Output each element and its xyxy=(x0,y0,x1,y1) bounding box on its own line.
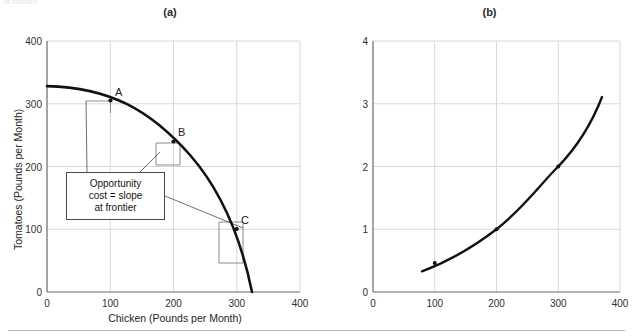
panel-b-xtick-100: 100 xyxy=(426,298,443,309)
panel-a-callout: Opportunity cost = slope at frontier xyxy=(66,172,165,220)
panel-b-xtick-300: 300 xyxy=(550,298,567,309)
panel-b-xtick-200: 200 xyxy=(488,298,505,309)
data-point-c xyxy=(556,165,560,169)
data-point-B xyxy=(171,139,175,143)
bottom-rule xyxy=(8,330,625,331)
data-point-C xyxy=(235,227,239,231)
panel-b-ytick-4: 4 xyxy=(354,36,368,47)
panel-a-plot xyxy=(0,0,320,330)
point-label-A: A xyxy=(115,86,122,98)
panel-a-xtick-0: 0 xyxy=(44,298,50,309)
figure-root: of chicken (a) xyxy=(0,0,633,336)
panel-a-ytick-300: 300 xyxy=(16,98,42,109)
panel-b-xtick-0: 0 xyxy=(370,298,376,309)
panel-b: (b) 4 3 2 xyxy=(320,0,633,330)
point-label-B: B xyxy=(178,126,185,138)
panel-b-ytick-2: 2 xyxy=(354,161,368,172)
panel-b-ytick-3: 3 xyxy=(354,98,368,109)
panel-a-callout-line2: cost = slope xyxy=(67,190,164,202)
panel-a: (a) xyxy=(0,0,320,330)
panel-a-ytick-0: 0 xyxy=(16,287,42,298)
panel-a-callout-line3: at frontier xyxy=(67,202,164,214)
panel-a-ytick-400: 400 xyxy=(16,36,42,47)
panel-b-ytick-0: 0 xyxy=(354,287,368,298)
data-point-b xyxy=(495,227,499,231)
panel-b-xtick-400: 400 xyxy=(612,298,629,309)
panel-a-xtick-400: 400 xyxy=(292,298,309,309)
panel-a-xtick-200: 200 xyxy=(165,298,182,309)
data-point-A xyxy=(108,98,112,102)
panel-a-xtick-100: 100 xyxy=(102,298,119,309)
point-label-C: C xyxy=(241,214,249,226)
panel-a-ylabel: Tomatoes (Pounds per Month) xyxy=(12,109,24,250)
panel-a-xtick-300: 300 xyxy=(228,298,245,309)
panel-b-ytick-1: 1 xyxy=(354,224,368,235)
data-point-a xyxy=(433,261,437,265)
panel-a-xlabel: Chicken (Pounds per Month) xyxy=(48,312,302,324)
panel-a-callout-line1: Opportunity xyxy=(67,178,164,190)
